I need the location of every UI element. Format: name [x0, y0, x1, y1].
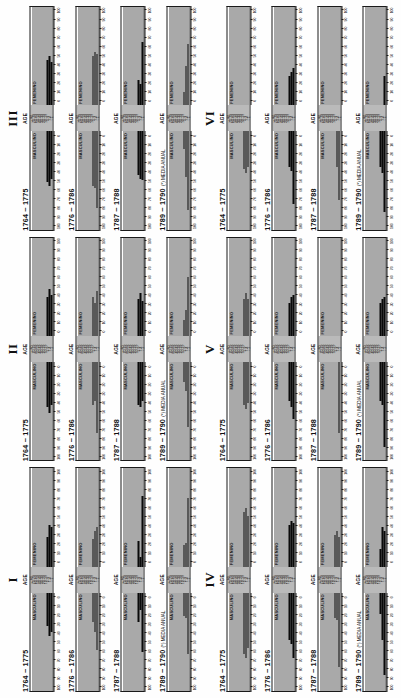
pyramid-plot: MASCULINOAGE+ 8070-7960-6950-5940-4930-3… [166, 237, 190, 462]
axis-tick: 50 [53, 512, 60, 521]
age-gridline [38, 131, 39, 229]
axis-tick: 60 [386, 186, 393, 195]
age-gridline [286, 362, 287, 460]
male-half: MASCULINO [317, 131, 341, 230]
axis-tick: 80 [341, 485, 348, 494]
axis-tick: 30 [341, 300, 348, 309]
axis-tick: 100 [53, 452, 60, 461]
axis-tick: 60 [295, 647, 302, 656]
axis-tick: 100 [250, 6, 257, 15]
age-gridline [86, 362, 87, 460]
age-axis-header: AGE [355, 567, 360, 593]
x-axis-ruler: 1009080706050403020100 [250, 593, 259, 692]
axis-tick: 60 [144, 186, 151, 195]
age-gridline [44, 593, 45, 691]
age-gridline [90, 7, 91, 105]
axis-tick: 100 [250, 452, 257, 461]
pyramid-bar [48, 593, 50, 636]
pyramid-bar [245, 362, 247, 409]
axis-tick: 40 [295, 291, 302, 300]
axis-tick: 10 [53, 371, 60, 380]
age-gridline [241, 238, 242, 336]
axis-tick: 10 [99, 371, 106, 380]
age-gridline [373, 131, 374, 229]
axis-tick: 10 [53, 87, 60, 96]
pyramid-bar [383, 76, 385, 106]
axis-tick: 60 [190, 416, 197, 425]
axis-tick: 90 [250, 443, 257, 452]
x-axis-ruler: 0102030405060708090100 [386, 6, 395, 105]
axis-tick: 90 [341, 246, 348, 255]
axis-tick: 90 [386, 476, 393, 485]
age-group-label: - 1 [292, 567, 295, 593]
male-axis-label: MASCULINO [31, 133, 36, 159]
pyramid-bar [141, 362, 143, 401]
axis-tick: 30 [250, 158, 257, 167]
axis-tick: 10 [295, 371, 302, 380]
axis-tick: 30 [190, 389, 197, 398]
age-group-text: - 1 [142, 105, 146, 131]
axis-tick: 10 [190, 371, 197, 380]
age-gridline [88, 238, 89, 336]
axis-tick: 50 [99, 638, 106, 647]
age-gridline [286, 7, 287, 105]
age-gridline [135, 593, 136, 691]
axis-tick: 20 [190, 611, 197, 620]
axis-tick: 90 [295, 443, 302, 452]
pyramid-bar [137, 593, 139, 622]
axis-tick: 60 [144, 503, 151, 512]
axis-tick: 50 [250, 638, 257, 647]
axis-tick: 10 [99, 602, 106, 611]
axis-tick: 50 [250, 176, 257, 185]
age-axis-column: AGE+ 8070-7960-6950-5940-4930-3920-2910-… [271, 105, 295, 131]
x-axis-ruler: 1009080706050403020100 [386, 131, 395, 230]
period-text: 1776 ~ 1786 [262, 188, 271, 230]
axis-tick: 60 [99, 647, 106, 656]
axis-tick: 20 [144, 149, 151, 158]
pyramid-bar [96, 362, 98, 433]
axis-tick: 30 [144, 158, 151, 167]
axis-tick: 90 [250, 476, 257, 485]
pyramid-bar [245, 593, 247, 658]
age-gridline [326, 238, 327, 336]
pyramid-plot: MASCULINOAGE+ 8070-7960-6950-5940-4930-3… [120, 467, 144, 692]
period-text: 1776 ~ 1786 [66, 188, 75, 230]
x-axis-ruler: 1009080706050403020100 [53, 593, 62, 692]
axis-tick: 40 [144, 522, 151, 531]
age-gridline [328, 131, 329, 229]
axis-tick: 100 [190, 467, 197, 476]
age-gridline [241, 7, 242, 105]
axis-tick: 40 [99, 398, 106, 407]
age-gridline [241, 468, 242, 566]
axis-tick: 80 [53, 434, 60, 443]
female-axis-label: FEMENINO [364, 542, 369, 565]
axis-tick: 90 [190, 476, 197, 485]
axis-tick: 0 [99, 96, 106, 105]
axis-tick: 0 [53, 362, 60, 371]
axis-tick: 100 [250, 222, 257, 231]
axis-tick: 20 [250, 540, 257, 549]
pyramid-bar [383, 531, 385, 566]
male-half: MASCULINO [362, 593, 386, 692]
pyramid-plot: MASCULINOAGE+ 8070-7960-6950-5940-4930-3… [166, 467, 190, 692]
axis-tick: 30 [341, 389, 348, 398]
age-group-label: - 1 [338, 567, 341, 593]
axis-tick: 60 [144, 647, 151, 656]
axis-tick: 20 [250, 611, 257, 620]
age-gridline [129, 238, 130, 336]
age-axis-header: AGE [219, 567, 224, 593]
axis-tick: 20 [190, 78, 197, 87]
age-group-label: - 1 [141, 567, 144, 593]
axis-tick: 0 [53, 558, 60, 567]
axis-tick: 20 [386, 309, 393, 318]
axis-tick: 100 [99, 452, 106, 461]
axis-tick: 40 [295, 629, 302, 638]
axis-tick: 80 [386, 434, 393, 443]
axis-tick: 50 [190, 282, 197, 291]
pyramid-bar [46, 131, 48, 182]
pyramid-bar [381, 593, 383, 640]
pyramid-bar [141, 593, 143, 652]
female-half: FEMENINO [120, 467, 144, 566]
axis-tick: 90 [99, 443, 106, 452]
age-gridline [377, 7, 378, 105]
